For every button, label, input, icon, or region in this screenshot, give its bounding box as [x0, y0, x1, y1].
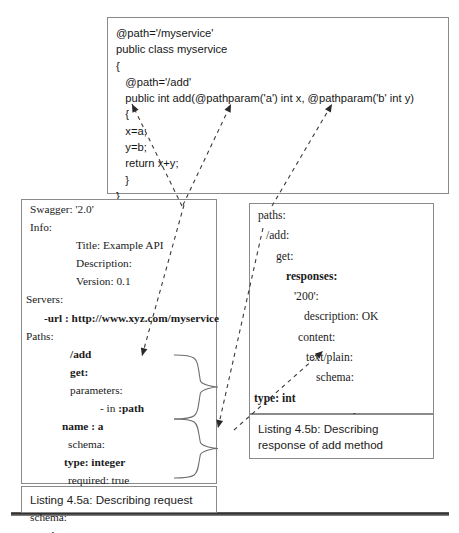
spec-line: Description:	[22, 254, 216, 272]
spec-line: name : a	[22, 417, 216, 435]
spec-line: /add	[22, 345, 216, 363]
spec-line: Servers:	[22, 290, 216, 308]
listing-caption-a-text: Listing 4.5a: Describing request	[30, 493, 192, 506]
figure-canvas: @path='/myservice'public class myservice…	[0, 0, 459, 533]
java-code-line: @path='/add'	[116, 74, 445, 90]
spec-line: schema:	[22, 435, 216, 453]
java-code-line: public int add(@pathparam('a') int x, @p…	[116, 90, 445, 106]
spec-line: Version: 0.1	[22, 272, 216, 290]
swagger-response-lines: paths:/add:get:responses:'200':descripti…	[250, 206, 433, 429]
java-code-line: }	[116, 172, 445, 188]
spec-line: /add:	[250, 226, 433, 246]
spec-line: type: int	[250, 389, 433, 409]
spec-line: Info:	[22, 218, 216, 236]
swagger-request-lines: Swagger: '2.0'Info:Title: Example APIDes…	[22, 200, 216, 483]
listing-caption-b: Listing 4.5b: Describing response of add…	[249, 414, 434, 459]
spec-line: Paths:	[22, 327, 216, 345]
spec-line: get:	[22, 363, 216, 381]
spec-line: responses:	[250, 267, 433, 287]
listing-caption-b-text: Listing 4.5b: Describing response of add…	[258, 421, 428, 453]
listing-caption-a: Listing 4.5a: Describing request	[21, 486, 217, 513]
spec-line: -url : http://www.xyz.com/myservice	[22, 309, 216, 327]
arrow-responses-to-brace-head	[216, 419, 223, 428]
java-code-line: @path='/myservice'	[116, 25, 445, 41]
spec-line: paths:	[250, 206, 433, 226]
java-code-line: y=b;	[116, 139, 445, 155]
spec-line: parameters:	[22, 381, 216, 399]
java-code-line: return x+y;	[116, 155, 445, 171]
spec-line: '200':	[250, 287, 433, 307]
java-code-line: {	[116, 106, 445, 122]
spec-line: text/plain:	[250, 348, 433, 368]
swagger-response-box: paths:/add:get:responses:'200':descripti…	[249, 203, 434, 414]
java-code-lines: @path='/myservice'public class myservice…	[116, 25, 445, 204]
java-code-line: {	[116, 58, 445, 74]
spec-line: description: OK	[250, 307, 433, 327]
spec-line: - in :path	[22, 399, 216, 417]
swagger-request-box: Swagger: '2.0'Info:Title: Example APIDes…	[21, 199, 217, 484]
spec-line: type: integer	[22, 453, 216, 471]
java-code-line: public class myservice	[116, 41, 445, 57]
spec-line: content:	[250, 328, 433, 348]
java-service-code-box: @path='/myservice'public class myservice…	[107, 17, 449, 194]
spec-line: Title: Example API	[22, 236, 216, 254]
spec-line: type: integer	[22, 526, 216, 533]
spec-line: schema:	[250, 368, 433, 388]
spec-line: get:	[250, 247, 433, 267]
java-code-line: x=a;	[116, 123, 445, 139]
spec-line: Swagger: '2.0'	[22, 200, 216, 218]
